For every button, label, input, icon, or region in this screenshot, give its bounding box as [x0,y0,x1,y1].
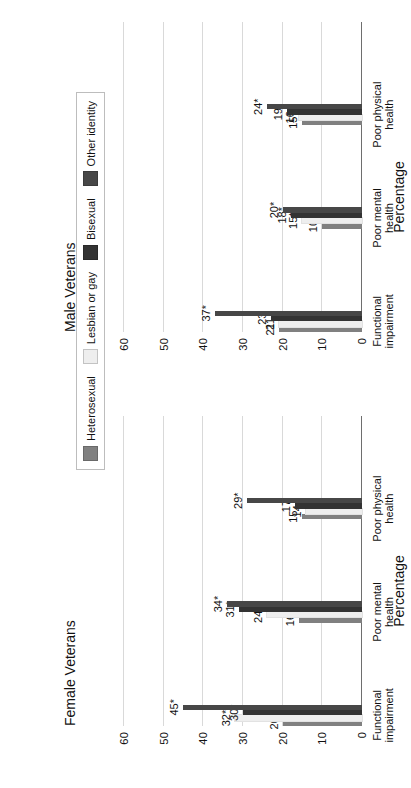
legend-swatch [83,171,98,186]
bar: 24* [267,612,362,617]
bar-group: 21212337*Functionalimpairment [104,229,362,332]
y-axis-tick-label: 50 [158,338,170,362]
x-axis-category-label: Poor physicalhealth [371,476,396,542]
legend-swatch [83,446,98,461]
bar: 15 [302,120,362,125]
bar-group: 1624*31*34*Poor mentalhealth [104,519,362,622]
legend-label: Heterosexual [85,376,97,441]
figure-canvas: Female Veterans 2032*30*45*Functionalimp… [0,0,411,788]
bar: 19* [287,109,362,114]
bar-value-label: 24* [252,98,264,115]
bar: 32* [235,715,362,720]
y-axis-tick-label: 40 [197,732,209,756]
y-axis-tick-label: 50 [158,732,170,756]
bar-value-label: 34* [212,596,224,613]
y-axis-tick-label: 0 [356,338,368,362]
y-axis-tick-label: 10 [316,338,328,362]
x-axis-category-label: Poor physicalhealth [371,82,396,148]
bar-group: 2032*30*45*Functionalimpairment [104,623,362,726]
bar-value-label: 20* [268,202,280,219]
bar: 16 [299,617,363,622]
legend: HeterosexualLesbian or gayBisexualOther … [76,92,105,470]
plot-area-female: 2032*30*45*Functionalimpairment1624*31*3… [104,416,362,726]
bar: 20 [283,721,362,726]
bar: 15 [302,514,362,519]
y-axis-tick-label: 30 [237,732,249,756]
bar: 21 [279,327,362,332]
y-axis-tick-label: 40 [197,338,209,362]
bar: 18* [291,213,362,218]
bar: 30* [243,710,362,715]
bar-group: 1015*18*20*Poor mentalhealth [104,125,362,228]
y-axis-label-female: Percentage [391,555,407,627]
plot-inner-female: 2032*30*45*Functionalimpairment1624*31*3… [104,416,362,726]
bar-value-label: 45* [168,699,180,716]
bar: 37* [215,311,362,316]
bar-group: 15141729*Poor physicalhealth [104,416,362,519]
y-axis-tick-label: 20 [277,338,289,362]
plot-inner-male: 21212337*Functionalimpairment1015*18*20*… [104,22,362,332]
bar-value-label: 29* [232,492,244,509]
legend-item: Other identity [83,101,98,186]
y-axis-tick-label: 30 [237,338,249,362]
bar: 14 [306,509,362,514]
rotated-figure-frame: Female Veterans 2032*30*45*Functionalimp… [0,0,411,788]
legend-swatch [83,349,98,364]
panel-male-veterans: Male Veterans 21212337*Functionalimpairm… [0,0,411,394]
legend-item: Bisexual [83,198,98,260]
bar: 10 [322,223,362,228]
bar-group: 151619*24*Poor physicalhealth [104,22,362,125]
legend-label: Other identity [85,101,97,166]
plot-area-male: 21212337*Functionalimpairment1015*18*20*… [104,22,362,332]
x-axis-category-label: Functionalimpairment [371,294,396,348]
bar: 17 [295,503,362,508]
bar: 34* [227,601,362,606]
bar: 45* [183,705,362,710]
y-axis-tick-label: 60 [118,338,130,362]
legend-label: Bisexual [85,198,97,240]
bar: 20* [283,207,362,212]
y-axis-tick-label: 0 [356,732,368,756]
y-axis-label-male: Percentage [391,161,407,233]
y-axis-tick-label: 10 [316,732,328,756]
legend-swatch [83,245,98,260]
bar: 16 [299,115,363,120]
legend-item: Lesbian or gay [83,272,98,364]
bar: 15* [302,218,362,223]
bar: 24* [267,104,362,109]
panel-female-veterans: Female Veterans 2032*30*45*Functionalimp… [0,394,411,788]
y-axis-tick-label: 20 [277,732,289,756]
legend-item: Heterosexual [83,376,98,461]
y-axis-tick-label: 60 [118,732,130,756]
bar: 23 [271,316,362,321]
panel-title-female: Female Veterans [62,620,78,726]
bar: 29* [247,498,362,503]
x-axis-category-label: Functionalimpairment [371,688,396,742]
bar-value-label: 37* [200,305,212,322]
bar: 21 [279,321,362,326]
bar: 31* [239,607,362,612]
legend-label: Lesbian or gay [85,272,97,344]
